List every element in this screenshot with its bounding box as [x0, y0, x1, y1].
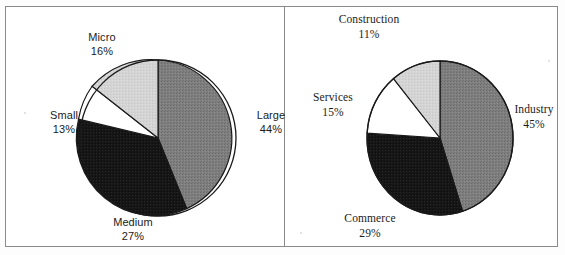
panel-sector: Construction 11% Services 15% Industry 4…	[285, 6, 558, 247]
pie-label-commerce-name: Commerce	[325, 211, 415, 226]
pie-label-services-value: 15%	[297, 105, 369, 120]
pie-label-services-name: Services	[297, 90, 369, 105]
pie-label-medium: Medium 27%	[93, 215, 173, 243]
pie-label-micro: Micro 16%	[67, 30, 137, 58]
pie-label-industry-value: 45%	[498, 117, 565, 132]
pie-label-commerce-value: 29%	[325, 226, 415, 241]
pie-label-services: Services 15%	[297, 90, 369, 119]
pie-label-medium-name: Medium	[93, 215, 173, 229]
pie-label-industry-name: Industry	[498, 102, 565, 117]
pie-label-micro-name: Micro	[67, 30, 137, 44]
pie-label-commerce: Commerce 29%	[325, 211, 415, 240]
pie-label-construction-value: 11%	[313, 27, 425, 42]
pie-label-small-name: Small	[31, 108, 97, 122]
pie-label-industry: Industry 45%	[498, 102, 565, 131]
pie-label-construction: Construction 11%	[313, 12, 425, 41]
figure-container: Micro 16% Small 13% Large 44% Medium 27%	[0, 0, 565, 255]
pie-label-small: Small 13%	[31, 108, 97, 136]
pie-label-small-value: 13%	[31, 122, 97, 136]
panel-enterprise-size: Micro 16% Small 13% Large 44% Medium 27%	[5, 6, 284, 247]
pie-label-micro-value: 16%	[67, 44, 137, 58]
pie-label-construction-name: Construction	[313, 12, 425, 27]
pie-label-medium-value: 27%	[93, 229, 173, 243]
